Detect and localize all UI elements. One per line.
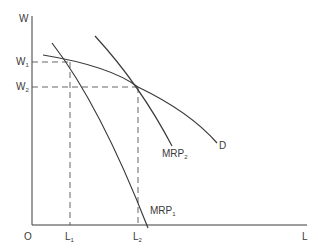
l1-label: L1 bbox=[65, 232, 74, 245]
y-axis-label: W bbox=[19, 14, 28, 24]
l2-label: L2 bbox=[133, 232, 142, 245]
demand-curve-d bbox=[43, 55, 217, 143]
labor-demand-diagram: W W1 W2 O L1 L2 L D MRP2 MRP1 bbox=[0, 0, 321, 248]
mrp2-curve bbox=[95, 36, 172, 146]
w1-label: W1 bbox=[16, 57, 29, 70]
x-axis-label: L bbox=[302, 232, 308, 242]
mrp2-curve-label: MRP2 bbox=[162, 149, 188, 162]
d-curve-label: D bbox=[219, 141, 226, 151]
mrp1-curve-label: MRP1 bbox=[150, 206, 176, 219]
mrp1-curve bbox=[52, 43, 148, 228]
w2-label: W2 bbox=[16, 82, 29, 95]
origin-label: O bbox=[24, 232, 32, 242]
